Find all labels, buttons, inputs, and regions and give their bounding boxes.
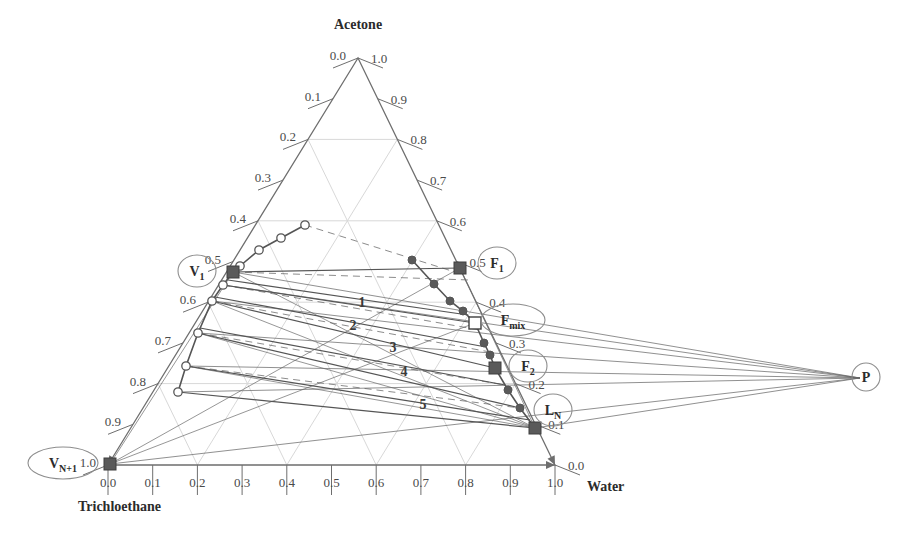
binodal-filled-circle-marker xyxy=(459,307,467,315)
construction-line xyxy=(186,366,535,428)
axis-tick-label: 0.9 xyxy=(105,414,121,429)
axis-tick-label: 0.4 xyxy=(279,475,296,490)
binodal-filled-circle-marker xyxy=(408,256,416,264)
axis-tick-label: 0.9 xyxy=(391,92,407,107)
axis-tick-label: 0.2 xyxy=(189,475,205,490)
binodal-open-circle-marker xyxy=(301,221,309,229)
binodal-filled-circle-marker xyxy=(516,404,524,412)
point-label-F1: F1 xyxy=(490,256,504,274)
binodal-open-circle-marker xyxy=(219,281,227,289)
point-label-VN1: VN+1 xyxy=(49,456,77,474)
axis-tick-label: 0.7 xyxy=(430,173,447,188)
axis-tick-label: 0.2 xyxy=(529,377,545,392)
dashed-line xyxy=(233,272,470,280)
point-label-F2: F2 xyxy=(521,359,535,377)
axis-ticks-layer: 0.00.10.20.30.40.50.60.70.80.91.00.00.10… xyxy=(80,48,585,495)
binodal-filled-circle-marker xyxy=(430,280,438,288)
operating-lines-layer xyxy=(110,272,860,464)
axis-tick-label: 0.2 xyxy=(280,129,296,144)
axis-tick-label: 0.3 xyxy=(255,170,271,185)
axis-tick-label: 1.0 xyxy=(80,455,96,470)
ternary-diagram: 0.00.10.20.30.40.50.60.70.80.91.00.00.10… xyxy=(0,0,919,541)
axis-tick-label: 0.8 xyxy=(130,374,146,389)
axis-tick-label: 0.8 xyxy=(457,475,473,490)
axis-tick-label: 0.4 xyxy=(230,211,247,226)
point-marker-Fmix xyxy=(469,317,481,329)
axis-tick-label: 0.0 xyxy=(330,48,346,63)
axis-tick-label: 0.6 xyxy=(368,475,385,490)
point-marker-F1 xyxy=(454,262,466,274)
binodal-open-circle-marker xyxy=(255,246,263,254)
vertex-label-water: Water xyxy=(587,479,624,494)
binodal-open-circle-marker xyxy=(174,388,182,396)
tie-line xyxy=(233,268,460,272)
axis-tick-label: 0.1 xyxy=(305,89,321,104)
axis-tick-label: 0.8 xyxy=(410,132,426,147)
binodal-open-circle-marker xyxy=(182,362,190,370)
tie-line xyxy=(212,301,495,368)
point-label-V1: V1 xyxy=(189,264,204,282)
axis-tick-label: 0.6 xyxy=(450,214,467,229)
axis-tick-label: 0.7 xyxy=(155,333,172,348)
stage-number: 1 xyxy=(359,295,366,310)
point-marker-LN xyxy=(529,422,541,434)
tie-lines-layer xyxy=(178,268,535,428)
axis-tick-label: 0.3 xyxy=(509,336,525,351)
axis-tick-label: 0.9 xyxy=(502,475,518,490)
axis-tick-label: 0.5 xyxy=(205,252,221,267)
binodal-filled-circle-marker xyxy=(480,339,488,347)
operating-line xyxy=(535,378,860,428)
axis-tick-label: 1.0 xyxy=(371,51,387,66)
figure-canvas: 0.00.10.20.30.40.50.60.70.80.91.00.00.10… xyxy=(0,0,919,541)
point-marker-VN1 xyxy=(104,458,116,470)
construction-line xyxy=(110,268,460,464)
stage-number: 3 xyxy=(390,340,397,355)
axis-tick-label: 0.0 xyxy=(100,475,116,490)
axis-tick-label: 0.1 xyxy=(145,475,161,490)
construction-lines-layer xyxy=(110,268,535,464)
point-marker-F2 xyxy=(489,362,501,374)
binodal-filled-circle-marker xyxy=(446,297,454,305)
axis-tick-label: 0.7 xyxy=(413,475,430,490)
binodal-filled-circle-marker xyxy=(486,351,494,359)
stage-number: 2 xyxy=(350,318,357,333)
point-label-Fmix: Fmix xyxy=(501,313,526,331)
point-marker-V1 xyxy=(227,266,239,278)
vertex-label-trichloethane: Trichloethane xyxy=(78,499,161,514)
point-callouts-layer: V1VN+1F1FmixF2LNP xyxy=(28,247,880,479)
dashed-line xyxy=(305,225,455,272)
binodal-open-circle-marker xyxy=(208,297,216,305)
stage-number: 5 xyxy=(420,397,427,412)
binodal-open-circle-marker xyxy=(277,234,285,242)
axis-tick-label: 0.5 xyxy=(323,475,339,490)
stage-number: 4 xyxy=(401,364,408,379)
axis-tick-label: 1.0 xyxy=(547,475,563,490)
axis-tick-label: 0.6 xyxy=(180,292,197,307)
binodal-open-circle-marker xyxy=(194,329,202,337)
axis-tick-label: 0.0 xyxy=(568,458,584,473)
vertex-label-acetone: Acetone xyxy=(334,17,382,32)
point-label-P: P xyxy=(862,370,871,385)
binodal-filled-circle-marker xyxy=(504,386,512,394)
axis-tick-label: 0.3 xyxy=(234,475,250,490)
